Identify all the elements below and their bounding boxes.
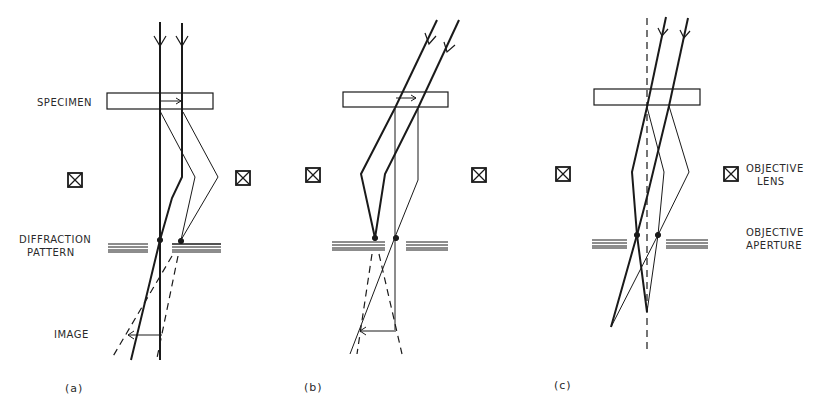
lens-symbol-c-right xyxy=(724,167,738,181)
lens-symbol-a-right xyxy=(236,171,250,185)
panel-label-a: (a) xyxy=(65,382,83,395)
label-diffraction-pattern-2: PATTERN xyxy=(27,247,75,259)
label-specimen: SPECIMEN xyxy=(37,97,92,109)
panel-label-b: (b) xyxy=(304,381,323,394)
label-image: IMAGE xyxy=(54,329,89,341)
panel-b xyxy=(306,20,486,354)
aperture-a xyxy=(108,244,221,252)
aperture-c xyxy=(592,240,708,248)
label-objective-lens-2: LENS xyxy=(757,176,785,188)
label-diffraction-pattern-1: DIFFRACTION xyxy=(19,234,91,246)
label-objective-aperture-2: APERTURE xyxy=(746,240,802,252)
label-objective-aperture-1: OBJECTIVE xyxy=(746,227,804,239)
panel-label-c: (c) xyxy=(554,379,572,392)
label-objective-lens-1: OBJECTIVE xyxy=(746,163,804,175)
panel-a xyxy=(68,22,250,360)
caption-cut-off xyxy=(300,404,600,411)
lens-symbol-c-left xyxy=(556,167,570,181)
lens-symbol-b-left xyxy=(306,168,320,182)
panel-c xyxy=(556,17,738,352)
electron-microscope-ray-diagram: SPECIMEN DIFFRACTION PATTERN IMAGE OBJEC… xyxy=(0,0,832,411)
lens-symbol-a-left xyxy=(68,173,82,187)
lens-symbol-b-right xyxy=(472,168,486,182)
ray-diagram-svg xyxy=(0,0,832,411)
